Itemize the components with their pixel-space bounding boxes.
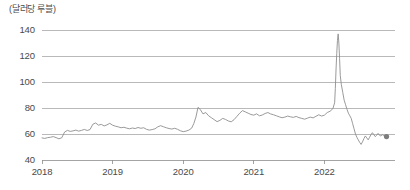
y-axis-tick-label: 100	[19, 76, 35, 87]
x-axis-tick-label: 2020	[173, 166, 194, 177]
line-chart-plot: 406080100120140 20182019202020212022	[0, 0, 410, 190]
usd-rub-line-series	[42, 34, 387, 144]
x-axis-tick-label: 2022	[314, 166, 335, 177]
y-axis-tick-label: 40	[25, 154, 35, 165]
y-axis-tick-label: 140	[19, 24, 35, 35]
y-axis-tick-label: 120	[19, 50, 35, 61]
y-axis-tick-label: 80	[25, 102, 35, 113]
x-axis-tick-label: 2021	[243, 166, 264, 177]
y-axis-tick-label: 60	[25, 128, 35, 139]
x-axis-tick-label: 2018	[32, 166, 53, 177]
series-end-marker	[384, 134, 389, 139]
x-axis-tick-labels: 20182019202020212022	[32, 166, 335, 177]
y-axis-tick-labels: 406080100120140	[19, 24, 35, 165]
gridlines	[42, 30, 395, 160]
x-axis-tick-marks	[42, 160, 324, 164]
x-axis-tick-label: 2019	[102, 166, 123, 177]
chart-container: (달러당 루블) 406080100120140 201820192020202…	[0, 0, 410, 190]
